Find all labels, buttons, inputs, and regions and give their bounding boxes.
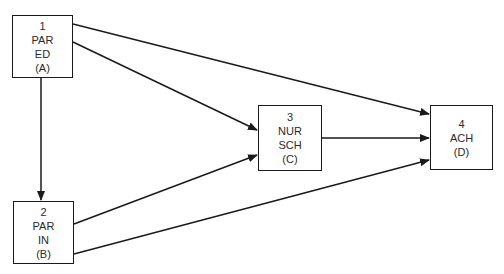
node-label-line: PAR: [32, 33, 54, 47]
node-label-line: ACH: [450, 131, 473, 145]
edge-a-to-c: [73, 42, 257, 130]
node-c-nur-sch: 3 NUR SCH (C): [258, 105, 322, 171]
node-number: 4: [458, 117, 464, 131]
node-a-par-ed: 1 PAR ED (A): [12, 15, 73, 78]
node-number: 2: [40, 205, 46, 219]
diagram-edges: [0, 0, 504, 274]
node-tag: (B): [36, 247, 51, 261]
node-b-par-in: 2 PAR IN (B): [13, 201, 74, 264]
node-tag: (A): [35, 61, 50, 75]
edge-b-to-d: [74, 160, 429, 254]
node-label-line: NUR: [278, 124, 302, 138]
node-label-line: SCH: [278, 138, 301, 152]
node-label-line: ED: [35, 47, 50, 61]
node-number: 1: [39, 19, 45, 33]
node-label-line: PAR: [33, 219, 55, 233]
node-number: 3: [287, 110, 293, 124]
edge-a-to-d: [73, 24, 429, 114]
node-label-line: IN: [38, 233, 49, 247]
edge-b-to-c: [74, 155, 257, 224]
node-d-ach: 4 ACH (D): [430, 105, 493, 170]
node-tag: (C): [282, 152, 297, 166]
node-tag: (D): [454, 145, 469, 159]
